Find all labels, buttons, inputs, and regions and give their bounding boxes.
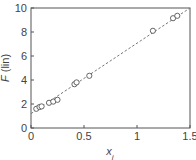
scatter-chart: 00.511.5 0246810 xi F (lin) <box>0 0 196 160</box>
data-point <box>74 80 79 85</box>
data-point <box>87 73 92 78</box>
x-tick-label: 1.5 <box>182 130 196 142</box>
x-tick-label: 0 <box>28 130 34 142</box>
data-point <box>39 104 44 109</box>
data-points <box>34 13 180 111</box>
fit-line <box>31 8 190 114</box>
y-tick-label: 4 <box>21 74 27 86</box>
y-tick-label: 6 <box>21 50 27 62</box>
y-tick-label: 10 <box>15 2 27 14</box>
x-tick-label: 0.5 <box>76 130 91 142</box>
plot-frame <box>31 8 190 128</box>
y-tick-label: 0 <box>21 122 27 134</box>
data-point <box>150 28 155 33</box>
y-tick-label: 2 <box>21 98 27 110</box>
x-tick-label: 1 <box>134 130 140 142</box>
y-tick-label: 8 <box>21 26 27 38</box>
data-point <box>175 13 180 18</box>
x-axis-label: xi <box>105 145 114 160</box>
y-axis-label: F (lin) <box>0 54 11 82</box>
data-point <box>55 97 60 102</box>
